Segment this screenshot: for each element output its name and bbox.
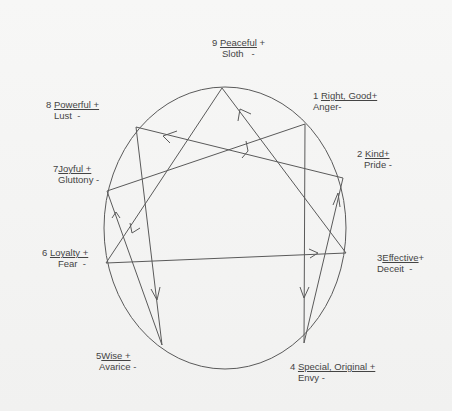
virtue-9: Peaceful [220,37,257,48]
line-8-5 [136,127,162,345]
virtue-2: Kind+ [365,148,390,159]
label-point-8: 8 Powerful + Lust - [46,99,99,121]
label-point-3: 3Effective+ Deceit - [377,252,424,274]
label-point-6: 6 Loyalty + Fear - [42,247,88,269]
vice-3: Deceit - [377,263,424,274]
virtue-8: Powerful + [54,99,99,110]
virtue-4: Special, Original + [298,361,375,372]
vice-9: Sloth - [212,48,265,59]
enneagram-diagram [0,0,452,411]
virtue-5: Wise + [101,350,130,361]
line-4-2 [304,178,343,343]
label-point-5: 5Wise + Avarice - [96,350,136,372]
virtue-3: Effective [382,252,418,263]
vice-7: Gluttony - [53,174,99,185]
arrow-up-icon [238,109,251,121]
line-1-4 [304,124,305,343]
label-point-1: 1 Right, Good+ Anger- [313,90,377,112]
label-point-9: 9 Peaceful + Sloth - [212,37,265,59]
virtue-1: Right, Good+ [321,90,377,101]
vice-5: Avarice - [96,361,136,372]
vice-1: Anger- [313,101,377,112]
line-9-3 [222,88,346,253]
vice-4: Envy - [290,372,375,383]
enneagram-circle [104,87,346,369]
virtue-7: Joyful + [58,163,91,174]
virtue-6: Loyalty + [50,247,88,258]
label-point-7: 7Joyful + Gluttony - [53,163,99,185]
vice-6: Fear - [42,258,88,269]
vice-8: Lust - [46,110,99,121]
label-point-2: 2 Kind+ Pride - [357,148,392,170]
label-point-4: 4 Special, Original + Envy - [290,361,375,383]
arrow-right-icon [309,249,318,258]
vice-2: Pride - [357,159,392,170]
